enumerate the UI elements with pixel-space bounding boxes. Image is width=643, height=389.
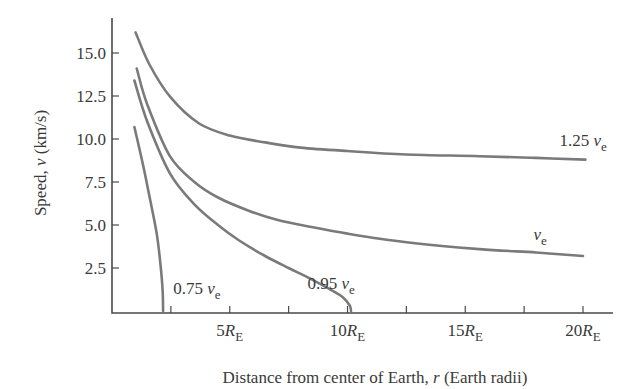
series-label: 0.75 ve	[173, 279, 221, 302]
x-tick-label: 20RE	[565, 321, 600, 344]
x-axis-label: Distance from center of Earth, r (Earth …	[223, 368, 528, 387]
y-tick-label: 7.5	[85, 173, 106, 192]
series-label: 0.95 ve	[307, 274, 355, 297]
y-tick-label: 12.5	[76, 87, 106, 106]
axis-frame	[112, 18, 613, 313]
speed-vs-distance-chart: 2.55.07.510.012.515.0 5RE10RE15RE20RE 1.…	[0, 0, 643, 389]
curve-0-75-v-e	[134, 127, 163, 311]
curve-v-e	[137, 69, 583, 257]
y-tick-label: 15.0	[76, 44, 106, 63]
y-tick-label: 5.0	[85, 216, 106, 235]
x-tick-label: 15RE	[448, 321, 483, 344]
x-tick-label: 5RE	[216, 321, 243, 344]
series-label: 1.25 ve	[559, 131, 607, 154]
curves	[134, 32, 585, 311]
y-axis-label: Speed, v (km/s)	[31, 110, 50, 216]
x-ticks: 5RE10RE15RE20RE	[171, 306, 601, 344]
series-labels: 1.25 veve0.95 ve0.75 ve	[173, 131, 607, 302]
axes	[112, 18, 613, 313]
series-label: ve	[534, 225, 548, 248]
x-tick-label: 10RE	[330, 321, 365, 344]
y-tick-label: 10.0	[76, 130, 106, 149]
curve-1-25-v-e	[136, 32, 586, 159]
y-tick-label: 2.5	[85, 259, 106, 278]
